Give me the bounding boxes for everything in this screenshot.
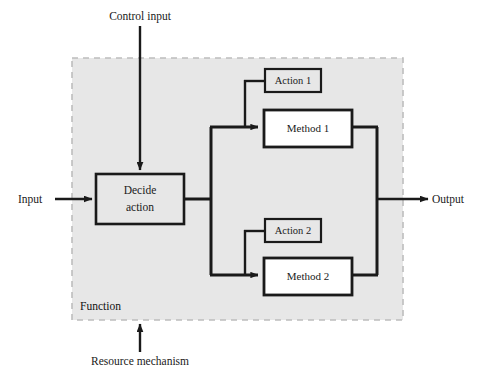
box-decide-action[interactable]: Decide action — [96, 174, 184, 224]
box-action-1-label: Action 1 — [275, 75, 311, 86]
box-method-2[interactable]: Method 2 — [264, 258, 352, 295]
box-action-2-label: Action 2 — [275, 225, 311, 236]
box-method-1-label: Method 1 — [287, 122, 329, 134]
output-label: Output — [432, 193, 465, 206]
box-decide-action-rect — [96, 174, 184, 224]
box-action-2[interactable]: Action 2 — [265, 219, 321, 242]
box-decide-action-label-line1: Decide — [124, 184, 157, 196]
box-method-2-label: Method 2 — [287, 270, 329, 282]
box-method-1[interactable]: Method 1 — [264, 110, 352, 147]
control-input-label: Control input — [109, 10, 171, 23]
diagram-svg: Decide action Action 1 Method 1 Action 2… — [0, 0, 483, 379]
input-label: Input — [18, 193, 43, 206]
diagram-canvas: Decide action Action 1 Method 1 Action 2… — [0, 0, 483, 379]
resource-mechanism-label: Resource mechanism — [91, 355, 189, 367]
function-container-label: Function — [80, 300, 121, 312]
box-decide-action-label-line2: action — [126, 201, 154, 213]
box-action-1[interactable]: Action 1 — [265, 69, 321, 92]
